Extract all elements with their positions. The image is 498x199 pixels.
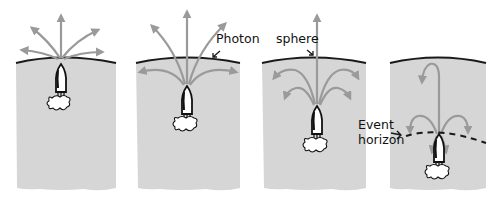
event-horizon-label: Event horizon	[358, 117, 404, 147]
diagram-canvas	[0, 0, 498, 199]
exhaust-cloud	[425, 165, 449, 180]
event-horizon-label-line1: Event	[358, 117, 404, 132]
event-horizon-label-line2: horizon	[358, 132, 404, 147]
photon-sphere-label-sphere: sphere	[276, 33, 319, 46]
photon-rays	[22, 16, 102, 59]
panel-4	[390, 58, 486, 191]
photon-sphere-pointers	[213, 50, 313, 57]
panel-1	[16, 16, 116, 190]
exhaust-cloud	[173, 117, 197, 132]
exhaust-cloud	[47, 96, 70, 111]
photon-sphere-label-photon: Photon	[216, 33, 260, 46]
black-hole-light-diagram: Photon sphere Event horizon	[0, 0, 498, 199]
exhaust-cloud	[303, 138, 327, 153]
